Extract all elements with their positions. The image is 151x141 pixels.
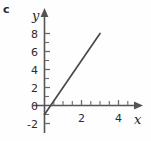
y-tick-label-2: 2 [31,82,38,95]
y-tick-label-6: 6 [31,46,38,59]
y-axis-arrow-icon [41,8,49,17]
y-tick-label-4: 4 [31,64,38,77]
x-axis-label: x [134,112,142,127]
coordinate-plane-plot: 8 6 4 2 0 -2 2 4 y x [0,0,151,141]
y-axis-label: y [31,8,40,23]
graph-figure: c [0,0,151,141]
x-axis-arrow-icon [134,102,143,110]
x-tick-label-2: 2 [78,112,85,125]
y-tick-label-0: 0 [31,100,38,113]
x-tick-label-4: 4 [115,112,122,125]
y-tick-label-minus-2: -2 [27,118,38,131]
y-tick-label-8: 8 [31,28,38,41]
x-axis-ticks [54,100,128,106]
